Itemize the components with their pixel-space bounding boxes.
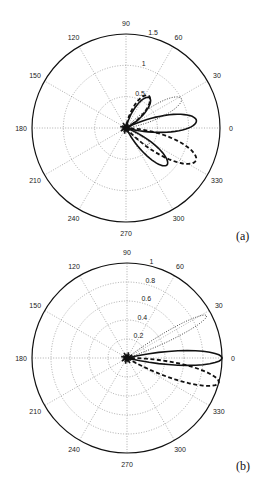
angle-tick-label: 210 (29, 408, 41, 415)
lobe-solid (126, 114, 196, 132)
polar-charts-figure: 03060901201501802102402703003300.511.5 0… (0, 0, 266, 488)
polar-chart-b: 03060901201501802102402703003300.20.40.6… (15, 249, 235, 468)
angle-tick-label: 150 (29, 302, 41, 309)
angle-tick-label: 30 (215, 302, 223, 309)
angle-tick-label: 330 (213, 408, 225, 415)
grid-spoke (45, 81, 126, 128)
angle-tick-label: 60 (176, 263, 184, 270)
angle-tick-label: 120 (68, 34, 80, 41)
grid-spoke (127, 276, 175, 358)
grid-spoke (126, 128, 207, 175)
lobe-dashed (127, 358, 219, 386)
angle-tick-label: 180 (15, 125, 27, 132)
radial-tick-label: 0.8 (145, 277, 155, 284)
angle-tick-label: 300 (174, 446, 186, 453)
radial-tick-label: 1 (142, 60, 146, 67)
radial-tick-label: 0.4 (138, 314, 148, 321)
radial-tick-label: 1 (149, 258, 153, 265)
angle-tick-label: 30 (213, 72, 221, 79)
angle-tick-label: 90 (122, 20, 130, 27)
angle-tick-label: 270 (121, 461, 133, 468)
panel-label-a: (a) (236, 229, 249, 243)
grid-spoke (45, 128, 126, 175)
radial-tick-label: 0.2 (134, 332, 144, 339)
angle-tick-label: 270 (120, 230, 132, 237)
angle-tick-label: 210 (29, 177, 41, 184)
grid-spoke (79, 47, 126, 128)
angle-tick-label: 240 (68, 446, 80, 453)
polar-chart-a: 03060901201501802102402703003300.511.5 (15, 20, 233, 237)
angle-tick-label: 90 (123, 249, 131, 256)
grid-spoke (80, 358, 128, 440)
angle-tick-label: 180 (15, 355, 27, 362)
grid-spoke (79, 128, 126, 209)
angle-tick-label: 0 (229, 125, 233, 132)
panel-label-b: (b) (236, 459, 250, 473)
angle-tick-label: 60 (175, 34, 183, 41)
grid-spoke (45, 311, 127, 359)
angle-tick-label: 120 (68, 263, 80, 270)
radial-tick-label: 0.6 (141, 295, 151, 302)
grid-spoke (80, 276, 128, 358)
angle-tick-label: 0 (231, 355, 235, 362)
angle-tick-label: 300 (173, 215, 185, 222)
angle-tick-label: 240 (68, 215, 80, 222)
grid-spoke (45, 358, 127, 406)
radial-tick-label: 1.5 (148, 29, 158, 36)
angle-tick-label: 330 (211, 177, 223, 184)
angle-tick-label: 150 (29, 72, 41, 79)
